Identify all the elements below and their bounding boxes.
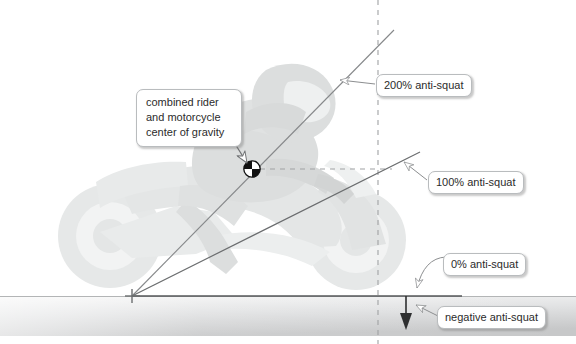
anti-squat-diagram: combined rider and motorcycle center of … [0, 0, 576, 344]
callout-anti-squat-0: 0% anti-squat [443, 253, 526, 276]
callout-center-of-gravity: combined rider and motorcycle center of … [136, 89, 242, 147]
center-of-gravity-symbol [244, 161, 260, 177]
leader-line-200 [340, 80, 375, 84]
leader-line-0 [417, 257, 446, 288]
callout-anti-squat-100: 100% anti-squat [428, 171, 524, 194]
leader-line-100 [404, 162, 427, 180]
callout-anti-squat-200: 200% anti-squat [376, 74, 472, 97]
callout-anti-squat-negative: negative anti-squat [437, 306, 546, 329]
